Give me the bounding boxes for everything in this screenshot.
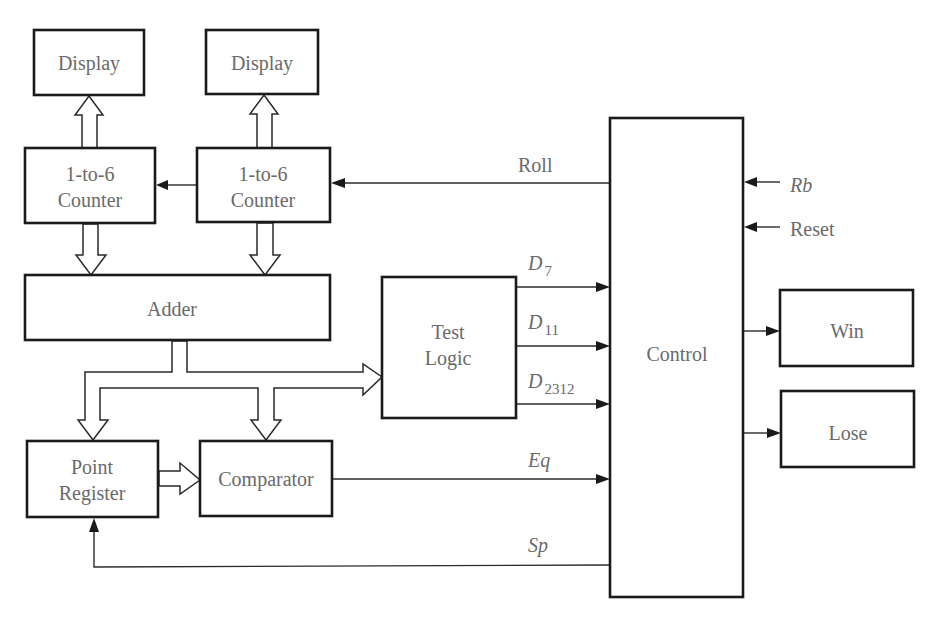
signal-d7-sub: 7 xyxy=(544,263,552,279)
counter-right-line2: Counter xyxy=(231,189,296,211)
signal-roll-label: Roll xyxy=(518,154,553,176)
block-counter-right: 1-to-6 Counter xyxy=(197,148,330,222)
dice-game-block-diagram: Display Display 1-to-6 Counter 1-to-6 Co… xyxy=(0,0,944,620)
signal-d2312-label: D2312 xyxy=(527,370,574,397)
point-register-line1: Point xyxy=(71,456,114,478)
adder-label: Adder xyxy=(147,298,197,320)
block-display-left: Display xyxy=(34,30,144,95)
signal-reset-label: Reset xyxy=(790,218,835,240)
test-logic-line2: Logic xyxy=(425,347,472,370)
signal-d11-sub: 11 xyxy=(544,322,558,338)
block-win: Win xyxy=(780,290,913,366)
signal-d2312-sub: 2312 xyxy=(544,381,574,397)
win-label: Win xyxy=(830,320,864,342)
arrowhead-icon xyxy=(331,178,345,188)
signal-eq-label: Eq xyxy=(527,449,550,472)
test-logic-line1: Test xyxy=(431,321,464,343)
signal-d11-base: D xyxy=(527,311,543,333)
comparator-label: Comparator xyxy=(218,468,314,491)
arrowhead-icon xyxy=(89,518,99,532)
counter-left-line2: Counter xyxy=(58,189,123,211)
bus-counter-right-to-adder xyxy=(250,223,280,275)
counter-right-line1: 1-to-6 xyxy=(239,163,288,185)
block-lose: Lose xyxy=(781,391,914,467)
block-test-logic: Test Logic xyxy=(382,277,516,418)
counter-left-line1: 1-to-6 xyxy=(66,163,115,185)
signal-d7-base: D xyxy=(527,252,543,274)
bus-counter-left-to-adder xyxy=(76,224,106,275)
block-comparator: Comparator xyxy=(200,441,332,516)
block-control: Control xyxy=(610,118,743,597)
arrowhead-icon xyxy=(744,177,757,187)
lose-label: Lose xyxy=(829,422,868,444)
arrowhead-icon xyxy=(766,326,780,336)
control-label: Control xyxy=(646,343,708,365)
signal-sp-label: Sp xyxy=(528,534,548,557)
bus-point-register-to-comparator xyxy=(159,463,200,494)
signal-d11-label: D11 xyxy=(527,311,559,338)
arrowhead-icon xyxy=(596,341,610,351)
block-counter-left: 1-to-6 Counter xyxy=(25,148,155,223)
block-display-right: Display xyxy=(206,30,318,94)
arrowhead-icon xyxy=(156,180,168,190)
arrowhead-icon xyxy=(767,428,781,438)
arrowhead-icon xyxy=(744,222,757,232)
arrowhead-icon xyxy=(596,399,610,409)
arrowhead-icon xyxy=(596,474,610,484)
point-register-line2: Register xyxy=(59,482,126,505)
arrowhead-icon xyxy=(596,282,610,292)
display-right-label: Display xyxy=(231,52,293,75)
block-adder: Adder xyxy=(25,275,330,340)
signal-d7-label: D7 xyxy=(527,252,552,279)
bus-counter-left-to-display xyxy=(75,96,103,148)
bus-counter-right-to-display xyxy=(250,95,278,148)
signal-rb-label: Rb xyxy=(789,174,812,196)
signal-d2312-base: D xyxy=(527,370,543,392)
bus-adder-outputs xyxy=(78,341,382,440)
display-left-label: Display xyxy=(58,52,120,75)
block-point-register: Point Register xyxy=(27,441,158,517)
